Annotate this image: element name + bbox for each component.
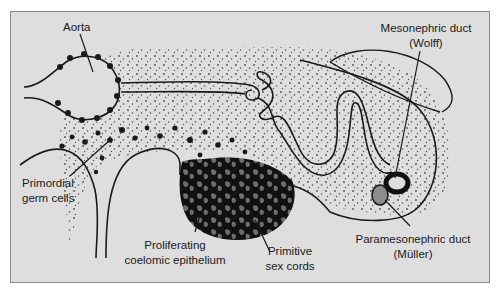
- label-mesonephric-duct: Mesonephric duct (Wolff): [366, 21, 486, 51]
- label-primitive-line1: Primitive: [255, 244, 325, 259]
- label-primitive-line2: sex cords: [255, 259, 325, 274]
- label-primitive-sex-cords: Primitive sex cords: [255, 244, 325, 274]
- label-paramesonephric-line2: (Müller): [348, 247, 478, 262]
- label-aorta: Aorta: [63, 20, 91, 35]
- mesonephric-duct-wolff: [386, 174, 408, 192]
- label-primordial-line1: Primordial: [22, 176, 74, 191]
- label-mesonephric-line1: Mesonephric duct: [366, 21, 486, 36]
- aorta: [24, 51, 121, 123]
- paramesonephric-duct-muller: [372, 185, 388, 205]
- label-proliferating-line1: Proliferating: [115, 238, 235, 253]
- label-mesonephric-line2: (Wolff): [366, 36, 486, 51]
- label-proliferating-epithelium: Proliferating coelomic epithelium: [115, 238, 235, 268]
- label-paramesonephric-duct: Paramesonephric duct (Müller): [348, 232, 478, 262]
- label-paramesonephric-line1: Paramesonephric duct: [348, 232, 478, 247]
- label-primordial-germ-cells: Primordial germ cells: [22, 176, 74, 206]
- label-primordial-line2: germ cells: [22, 191, 74, 206]
- label-proliferating-line2: coelomic epithelium: [115, 253, 235, 268]
